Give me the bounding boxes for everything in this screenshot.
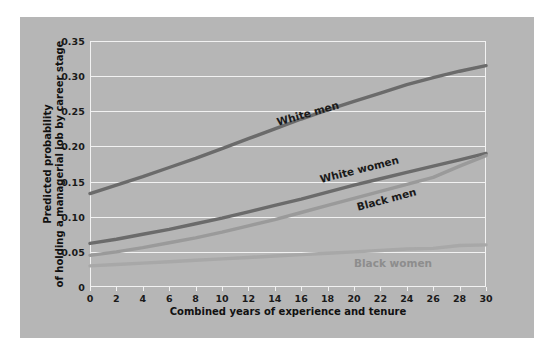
x-tick	[116, 287, 117, 291]
x-tick-label: 16	[295, 293, 308, 304]
series-line	[90, 153, 486, 243]
x-tick	[380, 287, 381, 291]
x-tick	[196, 287, 197, 291]
x-tick-label: 4	[139, 293, 146, 304]
x-tick-label: 6	[166, 293, 173, 304]
y-tick-label: 0	[78, 282, 85, 293]
chart-figure: Predicted probability of holding a manag…	[0, 0, 553, 354]
x-tick	[248, 287, 249, 291]
x-tick-label: 28	[453, 293, 466, 304]
x-tick-label: 2	[113, 293, 120, 304]
x-tick	[486, 287, 487, 291]
chart-panel: Predicted probability of holding a manag…	[20, 17, 534, 338]
x-tick	[169, 287, 170, 291]
x-tick-label: 20	[347, 293, 360, 304]
series-lines	[90, 41, 486, 287]
y-tick-label: 0.20	[61, 141, 85, 152]
x-tick	[460, 287, 461, 291]
series-label: Black women	[354, 257, 432, 269]
x-tick	[90, 287, 91, 291]
x-tick	[222, 287, 223, 291]
y-tick-label: 0.35	[61, 36, 85, 47]
x-tick-label: 0	[87, 293, 94, 304]
x-tick-label: 26	[427, 293, 440, 304]
x-tick-label: 22	[374, 293, 387, 304]
y-tick-label: 0.25	[61, 106, 85, 117]
x-tick	[407, 287, 408, 291]
x-tick-label: 10	[215, 293, 228, 304]
plot-area: 00.050.100.150.200.250.300.35 0246810121…	[90, 41, 486, 287]
x-tick-label: 18	[321, 293, 334, 304]
x-tick	[433, 287, 434, 291]
y-tick-label: 0.10	[61, 211, 85, 222]
x-tick-label: 8	[192, 293, 199, 304]
y-tick-label: 0.30	[61, 71, 85, 82]
x-tick-label: 14	[268, 293, 281, 304]
series-line	[90, 66, 486, 194]
x-tick	[275, 287, 276, 291]
y-tick-label: 0.15	[61, 176, 85, 187]
x-tick	[354, 287, 355, 291]
x-tick-label: 30	[479, 293, 492, 304]
x-tick-label: 24	[400, 293, 413, 304]
x-tick	[328, 287, 329, 291]
series-line	[90, 156, 486, 256]
x-tick	[143, 287, 144, 291]
x-tick	[301, 287, 302, 291]
y-axis-title-line1: Predicted probability	[42, 104, 55, 223]
x-axis-title: Combined years of experience and tenure	[170, 306, 407, 317]
y-tick-label: 0.05	[61, 246, 85, 257]
x-tick-label: 12	[242, 293, 255, 304]
